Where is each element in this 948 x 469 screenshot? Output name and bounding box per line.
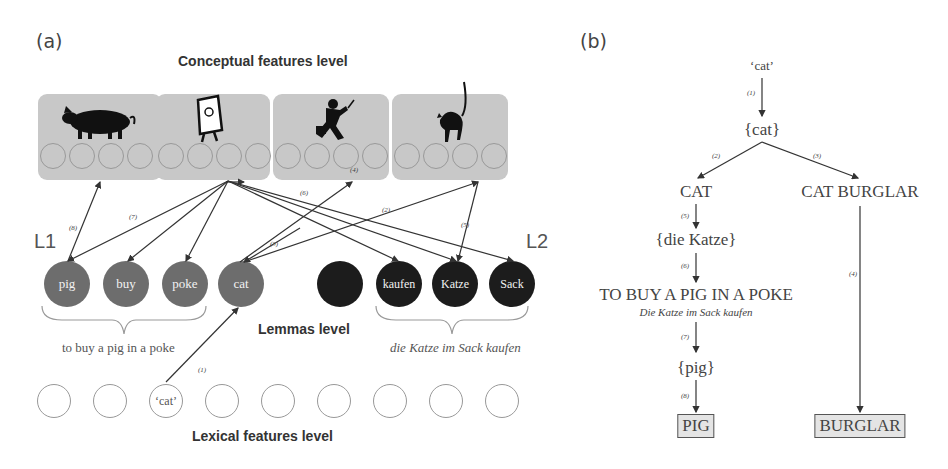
svg-text:(2): (2) <box>712 152 721 160</box>
panel-b-arrows: (1) (2) (3) (4) (5) (6) (7) (8) <box>0 0 948 469</box>
svg-text:(1): (1) <box>747 89 756 97</box>
svg-text:(4): (4) <box>849 270 858 278</box>
svg-text:(7): (7) <box>681 333 690 341</box>
svg-text:(5): (5) <box>681 212 690 220</box>
svg-text:(6): (6) <box>681 262 690 270</box>
svg-text:(3): (3) <box>813 152 822 160</box>
svg-text:(8): (8) <box>681 392 690 400</box>
